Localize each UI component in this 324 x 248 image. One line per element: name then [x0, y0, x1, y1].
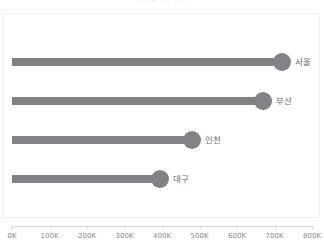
lollipop-chart: 지역별 인구 비교 서울부산인천대구0K100K200K300K400K500K…: [0, 0, 324, 248]
x-axis-tick-label: 500K: [191, 231, 209, 241]
x-axis-line: [12, 226, 312, 227]
x-axis-tick-label: 400K: [153, 231, 171, 241]
plot-panel: [2, 13, 320, 218]
x-axis-tick-label: 200K: [78, 231, 96, 241]
chart-title: 지역별 인구 비교: [0, 0, 324, 5]
x-axis-tick-label: 100K: [41, 231, 59, 241]
x-axis-tick-label: 300K: [116, 231, 134, 241]
x-axis-tick-label: 600K: [228, 231, 246, 241]
x-axis-tick: [312, 226, 313, 229]
x-axis-tick-label: 800K: [303, 231, 321, 241]
x-axis-tick-label: 0K: [7, 231, 16, 241]
x-axis-tick-label: 700K: [266, 231, 284, 241]
